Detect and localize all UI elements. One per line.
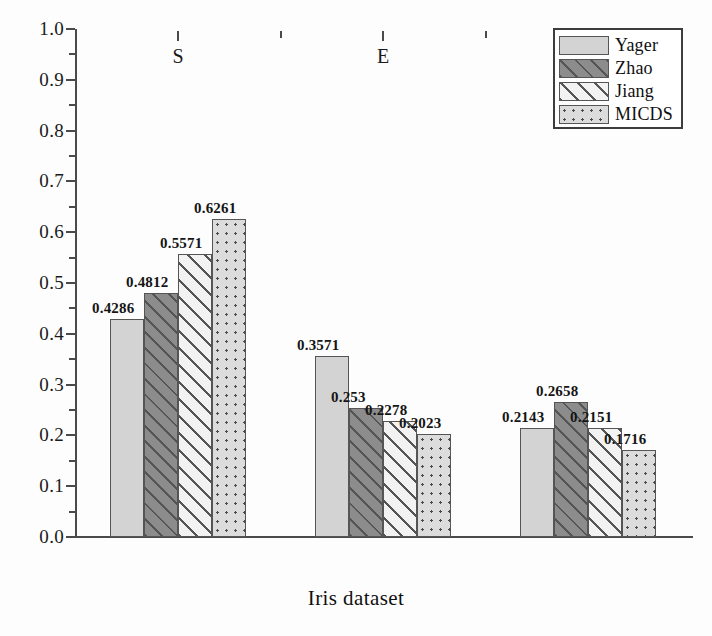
bar-yager-s — [110, 319, 144, 537]
y-tick-major — [66, 282, 75, 284]
y-tick-label: 1.0 — [39, 18, 64, 40]
y-tick-major — [66, 180, 75, 182]
legend-swatch-jiang — [559, 82, 609, 101]
y-tick-major — [66, 333, 75, 335]
y-tick-label: 0.9 — [39, 69, 64, 91]
x-tick-major — [177, 31, 179, 41]
y-tick-label: 0.6 — [39, 221, 64, 243]
y-tick-minor — [69, 155, 75, 157]
y-tick-minor — [69, 358, 75, 360]
y-tick-major — [66, 485, 75, 487]
bar-value-label: 0.253 — [331, 389, 366, 406]
y-tick-minor — [69, 511, 75, 513]
bar-micds-s — [212, 219, 246, 537]
y-tick-label: 0.4 — [39, 323, 64, 345]
bar-value-label: 0.4286 — [92, 300, 134, 317]
bar-micds-e — [417, 434, 451, 537]
y-tick-minor — [69, 53, 75, 55]
bar-value-label: 0.5571 — [160, 235, 202, 252]
y-tick-label: 0.0 — [39, 526, 64, 548]
bar-value-label: 0.1716 — [604, 431, 646, 448]
bar-yager-v — [520, 428, 554, 537]
legend-swatch-micds — [559, 105, 609, 124]
y-tick-label: 0.2 — [39, 424, 64, 446]
legend-item-zhao[interactable]: Zhao — [559, 57, 678, 79]
bar-zhao-s — [144, 293, 178, 537]
bar-value-label: 0.4812 — [126, 274, 168, 291]
y-tick-minor — [69, 307, 75, 309]
chart-page: 0.00.10.20.30.40.50.60.70.80.91.0 0.4286… — [0, 0, 712, 636]
legend-swatch-yager — [559, 36, 609, 55]
y-tick-label: 0.5 — [39, 272, 64, 294]
bar-jiang-e — [383, 421, 417, 537]
y-tick-minor — [69, 257, 75, 259]
y-tick-major — [66, 384, 75, 386]
bar-value-label: 0.2143 — [502, 409, 544, 426]
bar-value-label: 0.2151 — [570, 409, 612, 426]
x-axis-category-label: S — [172, 45, 183, 68]
y-tick-label: 0.8 — [39, 120, 64, 142]
y-tick-major — [66, 79, 75, 81]
legend-label: Yager — [615, 36, 658, 54]
bar-jiang-s — [178, 254, 212, 537]
legend: YagerZhaoJiangMICDS — [553, 28, 683, 129]
bar-value-label: 0.3571 — [297, 337, 339, 354]
y-tick-major — [66, 130, 75, 132]
y-tick-major — [66, 536, 75, 538]
legend-label: MICDS — [615, 105, 673, 123]
y-tick-minor — [69, 206, 75, 208]
y-tick-label: 0.1 — [39, 475, 64, 497]
y-tick-major — [66, 231, 75, 233]
x-tick-major — [382, 31, 384, 41]
bar-micds-v — [622, 450, 656, 537]
bar-value-label: 0.6261 — [194, 200, 236, 217]
bar-yager-e — [315, 356, 349, 537]
y-tick-label: 0.7 — [39, 170, 64, 192]
legend-item-micds[interactable]: MICDS — [559, 103, 678, 125]
legend-item-jiang[interactable]: Jiang — [559, 80, 678, 102]
bar-zhao-e — [349, 408, 383, 537]
x-tick-minor — [280, 31, 282, 38]
bar-value-label: 0.2658 — [536, 383, 578, 400]
bar-value-label: 0.2278 — [365, 402, 407, 419]
x-tick-minor — [485, 31, 487, 38]
x-axis-category-label: E — [377, 45, 389, 68]
legend-item-yager[interactable]: Yager — [559, 34, 678, 56]
y-tick-minor — [69, 460, 75, 462]
y-tick-label: 0.3 — [39, 374, 64, 396]
y-tick-major — [66, 434, 75, 436]
y-tick-minor — [69, 104, 75, 106]
y-tick-major — [66, 28, 75, 30]
y-tick-minor — [69, 409, 75, 411]
legend-swatch-zhao — [559, 59, 609, 78]
legend-label: Zhao — [615, 59, 653, 77]
legend-label: Jiang — [615, 82, 654, 100]
x-axis-title: Iris dataset — [0, 586, 712, 611]
